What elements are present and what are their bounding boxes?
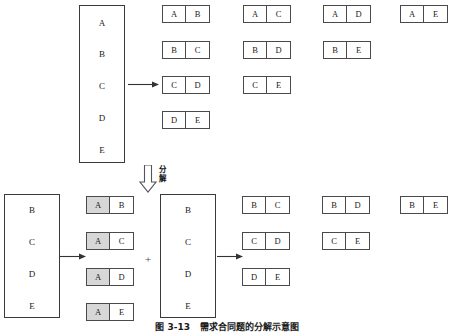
pair-box: A D (323, 5, 371, 23)
pair-cell-right: E (267, 77, 290, 93)
pair-box-shaded: A D (86, 268, 134, 286)
pair-cell-right: E (266, 269, 289, 285)
pair-cell-left: B (401, 197, 424, 213)
pair-box: B D (322, 196, 370, 214)
sub-set-right-box: B C D E (160, 194, 216, 318)
pair-box: C E (243, 76, 291, 94)
pair-box: C E (322, 232, 370, 250)
decompose-arrow-top (128, 80, 160, 89)
pair-cell-left: C (163, 77, 186, 93)
sub-set-right-item: E (161, 301, 215, 311)
pair-cell-left: B (163, 42, 186, 58)
pair-box: A B (162, 5, 210, 23)
pair-cell-right: D (110, 269, 133, 285)
pair-box: D E (242, 268, 290, 286)
sub-set-left-box: B C D E (4, 194, 60, 318)
pair-cell-right: E (186, 112, 209, 128)
pair-cell-right: B (110, 197, 133, 213)
sub-set-right-item: D (161, 269, 215, 279)
pair-box-shaded: A E (86, 303, 134, 321)
pair-cell-right: D (267, 42, 290, 58)
decompose-block-arrow (139, 165, 157, 193)
pair-cell-left: B (244, 42, 267, 58)
decompose-label: 分 解 (159, 166, 166, 183)
pair-cell-left: A (324, 6, 347, 22)
pair-cell-right: C (186, 42, 209, 58)
pair-cell-right: D (346, 197, 369, 213)
pair-box-shaded: A C (86, 232, 134, 250)
pair-box-shaded: A B (86, 196, 134, 214)
pair-box: B D (243, 41, 291, 59)
pair-box: B C (242, 196, 290, 214)
sub-set-right-item: C (161, 237, 215, 247)
pair-box: D E (162, 111, 210, 129)
pair-cell-right: B (186, 6, 209, 22)
pair-cell-right: C (266, 197, 289, 213)
pair-cell-left: A (401, 6, 424, 22)
pair-box: B C (162, 41, 210, 59)
pair-cell-right: C (110, 233, 133, 249)
pair-cell-left: A (87, 269, 110, 285)
pair-box: A E (400, 5, 448, 23)
pair-cell-right: E (424, 6, 447, 22)
pair-cell-right: D (347, 6, 370, 22)
pair-box: C D (162, 76, 210, 94)
source-set-item: A (80, 18, 124, 28)
pair-cell-left: C (323, 233, 346, 249)
pair-cell-left: D (243, 269, 266, 285)
pair-box: B E (400, 196, 448, 214)
pair-cell-left: C (243, 233, 266, 249)
pair-cell-right: E (347, 42, 370, 58)
pair-cell-left: A (244, 6, 267, 22)
pair-cell-left: A (163, 6, 186, 22)
pair-cell-left: C (244, 77, 267, 93)
figure-caption: 图 3-13 需求合同题的分解示意图 (0, 322, 454, 333)
source-set-item: D (80, 113, 124, 123)
pair-box: B E (323, 41, 371, 59)
sub-set-left-item: E (5, 301, 59, 311)
sub-set-left-item: C (5, 237, 59, 247)
pair-cell-left: B (323, 197, 346, 213)
pair-cell-left: D (163, 112, 186, 128)
pair-cell-left: B (324, 42, 347, 58)
pair-cell-right: D (266, 233, 289, 249)
source-set-item: E (80, 145, 124, 155)
pair-cell-right: E (110, 304, 133, 320)
source-set-box: A B C D E (79, 5, 125, 163)
figure-canvas: A B C D E A B B C C D D E A C B D C E A (0, 0, 454, 333)
pair-cell-left: A (87, 304, 110, 320)
source-set-item: C (80, 81, 124, 91)
sub-set-right-item: B (161, 205, 215, 215)
pair-cell-left: A (87, 233, 110, 249)
pair-cell-right: E (346, 233, 369, 249)
pair-cell-left: A (87, 197, 110, 213)
pair-cell-left: B (243, 197, 266, 213)
decompose-arrow-bottom-right (217, 252, 244, 261)
pair-cell-right: E (424, 197, 447, 213)
sub-set-left-item: D (5, 269, 59, 279)
pair-cell-right: C (267, 6, 290, 22)
pair-box: A C (243, 5, 291, 23)
source-set-item: B (80, 49, 124, 59)
sub-set-left-item: B (5, 205, 59, 215)
pair-cell-right: D (186, 77, 209, 93)
plus-operator: + (145, 254, 151, 265)
pair-box: C D (242, 232, 290, 250)
decompose-arrow-bottom-left (60, 252, 87, 261)
